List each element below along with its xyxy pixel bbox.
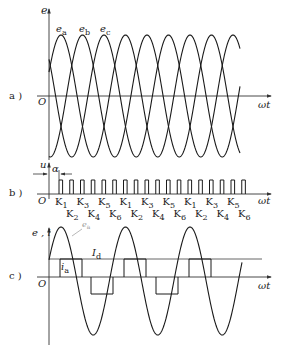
gate-pulse	[199, 180, 203, 194]
panel-b-y-axis-label: u	[40, 160, 46, 170]
switch-label: K3	[141, 197, 154, 207]
curve-label-eb: eb	[79, 24, 90, 34]
gate-pulse	[59, 180, 63, 194]
gate-pulse	[91, 180, 95, 194]
switch-label: K3	[206, 197, 219, 207]
panel-b-axes	[37, 163, 271, 199]
ia-positive-block	[124, 259, 146, 277]
gate-pulse-train	[59, 180, 245, 194]
switch-label: K4	[88, 209, 101, 219]
panel-b-label: b )	[9, 188, 22, 198]
ia-positive-block	[189, 259, 211, 277]
alpha-label: α	[52, 164, 59, 174]
gate-pulse	[188, 180, 192, 194]
panel-b-x-axis-label: ωt	[258, 196, 270, 206]
gate-pulse	[220, 180, 224, 194]
phase-current-label: ia	[61, 262, 69, 272]
curve-label-ea: ea	[56, 24, 67, 34]
switch-label: K1	[55, 197, 68, 207]
panel-c-y-axis-label: e , i	[32, 228, 51, 238]
gate-pulse	[167, 180, 171, 194]
panel-c-origin-label: O	[38, 279, 46, 289]
curve-label-ea-c: ea	[82, 221, 90, 229]
switch-label: K4	[152, 209, 165, 219]
switch-label: K5	[227, 197, 240, 207]
gate-pulse	[177, 180, 181, 194]
switch-label: K6	[109, 209, 122, 219]
gate-pulse	[134, 180, 138, 194]
gate-pulse	[70, 180, 74, 194]
switch-label: K2	[66, 209, 79, 219]
gate-pulse	[102, 180, 106, 194]
panel-a-y-axis-label: e	[41, 5, 48, 16]
curve-label-ec: ec	[100, 24, 110, 34]
switch-label: K5	[98, 197, 111, 207]
gate-pulse	[156, 180, 160, 194]
gate-pulse	[124, 180, 128, 194]
gate-pulse	[231, 180, 235, 194]
switch-label: K6	[238, 209, 251, 219]
gate-pulse	[145, 180, 149, 194]
panel-c-axes	[37, 228, 271, 345]
panel-c-label: c )	[9, 271, 22, 281]
phase-voltage-ea-wave	[49, 227, 242, 335]
panel-a-label: a )	[9, 91, 22, 101]
ea-leader-line	[72, 229, 82, 236]
gate-pulse	[81, 180, 85, 194]
dc-current-label: Id	[92, 248, 101, 258]
switch-label: K3	[77, 197, 90, 207]
panel-c-x-axis-label: ωt	[258, 281, 270, 291]
switch-label: K1	[120, 197, 133, 207]
phase-current-ia	[60, 259, 211, 294]
switch-label: K6	[174, 209, 187, 219]
switch-label: K5	[163, 197, 176, 207]
gate-pulse	[242, 180, 246, 194]
switch-label: K1	[184, 197, 197, 207]
waveform-figure	[0, 0, 281, 361]
gate-pulse	[210, 180, 214, 194]
gate-pulse	[113, 180, 117, 194]
switch-label: K2	[195, 209, 208, 219]
switch-label: K2	[131, 209, 144, 219]
panel-b-origin-label: O	[38, 196, 46, 206]
switch-label: K4	[217, 209, 230, 219]
panel-a-origin-label: O	[38, 97, 46, 107]
panel-a-x-axis-label: ωt	[258, 100, 270, 110]
